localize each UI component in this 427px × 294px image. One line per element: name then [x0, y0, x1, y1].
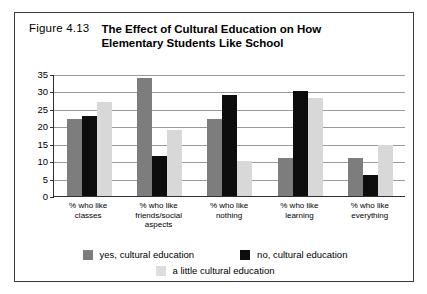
x-axis-label-line: % who like: [333, 201, 407, 211]
x-axis-label-line: nothing: [192, 211, 266, 221]
legend-entry-a-little: a little cultural education: [156, 265, 275, 276]
legend-label-a-little: a little cultural education: [173, 265, 275, 276]
figure-title-line-1: The Effect of Cultural Education on How: [101, 22, 401, 36]
bar-group: [336, 75, 406, 196]
bar: [167, 130, 182, 196]
bar-group: [54, 75, 124, 196]
x-axis-label-line: learning: [262, 211, 336, 221]
y-axis-tick-label: 20: [24, 123, 48, 133]
y-axis-tick-label: 30: [24, 88, 48, 98]
figure-title: The Effect of Cultural Education on How …: [101, 22, 401, 50]
plot-inner: 05101520253035: [53, 75, 405, 197]
y-axis-tick-mark: [50, 197, 54, 198]
bar: [137, 78, 152, 197]
y-axis-tick-label: 0: [24, 192, 48, 202]
bar: [293, 91, 308, 196]
y-axis-tick-label: 25: [24, 105, 48, 115]
legend-row-top: yes, cultural education no, cultural edu…: [29, 249, 401, 260]
legend-swatch-icon-yes: [83, 250, 93, 260]
figure-number: Figure 4.13: [29, 22, 89, 34]
x-axis-label-line: classes: [51, 211, 125, 221]
x-axis-label-line: everything: [333, 211, 407, 221]
bar: [97, 102, 112, 196]
legend-swatch-icon-a-little: [156, 266, 166, 276]
legend-entry-yes: yes, cultural education: [83, 249, 195, 260]
x-axis-label: % who likenothing: [192, 201, 266, 220]
x-axis-label-line: % who like: [51, 201, 125, 211]
x-axis-label: % who likeeverything: [333, 201, 407, 220]
legend-label-no: no, cultural education: [257, 249, 347, 260]
bar-group: [195, 75, 265, 196]
bar: [278, 158, 293, 196]
x-axis-label-line: aspects: [122, 220, 196, 230]
legend-row-bottom: a little cultural education: [29, 265, 401, 276]
bar: [378, 145, 393, 196]
bar-group: [265, 75, 335, 196]
bar: [222, 95, 237, 196]
bar: [348, 158, 363, 196]
bar: [237, 161, 252, 196]
chart-legend: yes, cultural education no, cultural edu…: [29, 249, 401, 281]
y-axis-tick-label: 35: [24, 70, 48, 80]
x-axis-label-line: % who like: [192, 201, 266, 211]
bar-group: [124, 75, 194, 196]
bar: [363, 175, 378, 196]
bar: [67, 119, 82, 196]
y-axis-tick-label: 5: [24, 175, 48, 185]
plot-area: 05101520253035: [53, 75, 405, 197]
figure-caption: Figure 4.13 The Effect of Cultural Educa…: [29, 22, 401, 50]
x-axis-label-line: % who like: [262, 201, 336, 211]
x-axis-label-line: % who like: [122, 201, 196, 211]
x-axis-label: % who likelearning: [262, 201, 336, 220]
x-axis-label: % who likeclasses: [51, 201, 125, 220]
x-axis-labels: % who likeclasses% who likefriends/socia…: [53, 201, 405, 237]
figure-title-line-2: Elementary Students Like School: [101, 36, 401, 50]
x-axis-label-line: friends/social: [122, 211, 196, 221]
legend-entry-no: no, cultural education: [240, 249, 347, 260]
figure-frame: Figure 4.13 The Effect of Cultural Educa…: [14, 12, 414, 282]
y-axis-tick-label: 15: [24, 140, 48, 150]
bar: [308, 98, 323, 196]
bar: [152, 156, 167, 196]
bar: [82, 116, 97, 196]
y-axis-tick-label: 10: [24, 157, 48, 167]
legend-swatch-icon-no: [240, 250, 250, 260]
bars-layer: [54, 75, 405, 196]
legend-label-yes: yes, cultural education: [100, 249, 195, 260]
x-axis-label: % who likefriends/socialaspects: [122, 201, 196, 230]
bar: [207, 119, 222, 196]
